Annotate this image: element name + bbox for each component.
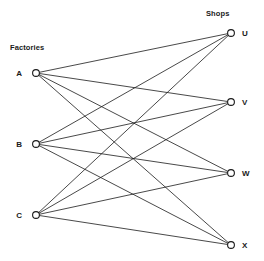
graph-node-w[interactable] — [228, 170, 235, 177]
graph-node-x[interactable] — [228, 242, 235, 249]
graph-edge-b-x — [39, 146, 228, 244]
graph-node-label-a: A — [16, 69, 22, 78]
graph-node-c[interactable] — [33, 212, 40, 219]
left-group-label: Factories — [10, 43, 44, 52]
nodes-layer — [33, 30, 235, 249]
bipartite-graph-diagram: Factories Shops ABCUVWX — [0, 0, 264, 261]
graph-node-u[interactable] — [228, 30, 235, 37]
graph-canvas: Factories Shops ABCUVWX — [0, 0, 264, 261]
graph-edge-b-u — [39, 35, 228, 143]
graph-node-b[interactable] — [33, 141, 40, 148]
graph-edge-a-x — [39, 75, 229, 243]
graph-edge-c-u — [38, 35, 228, 212]
graph-node-a[interactable] — [33, 70, 40, 77]
graph-node-v[interactable] — [228, 99, 235, 106]
graph-node-label-v: V — [242, 98, 248, 107]
graph-edge-a-v — [39, 74, 227, 102]
graph-node-label-x: X — [242, 241, 248, 250]
graph-node-label-w: W — [242, 169, 250, 178]
graph-node-label-u: U — [242, 29, 248, 38]
graph-edge-c-x — [39, 216, 227, 245]
right-group-label: Shops — [206, 9, 229, 18]
edges-layer — [38, 34, 228, 245]
graph-edge-c-v — [39, 104, 228, 214]
graph-edge-c-w — [39, 174, 227, 215]
graph-node-label-c: C — [16, 211, 22, 220]
labels-layer: Factories Shops ABCUVWX — [10, 9, 250, 250]
graph-edge-b-v — [39, 103, 227, 144]
graph-node-label-b: B — [16, 140, 22, 149]
graph-edge-a-u — [39, 34, 227, 73]
